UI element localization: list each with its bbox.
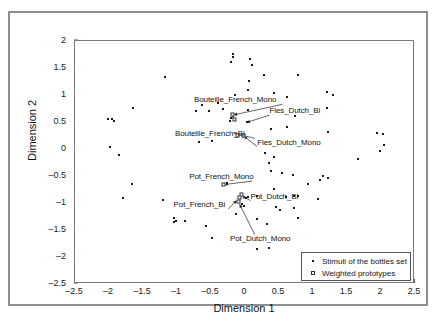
data-point: [205, 225, 207, 227]
annotation-label: Bouteille_French_Mono: [194, 95, 276, 104]
data-point: [132, 107, 134, 109]
figure-frame: Dimension 2 Dimension 1 21.510.50–0.5–1–…: [8, 11, 428, 306]
x-tick-mark: [414, 279, 415, 283]
data-point: [268, 162, 270, 164]
data-point: [281, 172, 283, 174]
data-point: [294, 115, 296, 117]
y-tick-label: 1: [61, 89, 66, 99]
x-tick-label: 1.5: [340, 286, 353, 296]
data-point: [326, 91, 328, 93]
annotation-label: Pot_Dutch_Bi: [250, 192, 298, 201]
data-point: [273, 92, 275, 94]
data-point: [222, 108, 224, 110]
y-tick-label: –1.5: [48, 224, 66, 234]
data-point: [247, 109, 249, 111]
data-point: [264, 152, 266, 154]
data-point: [292, 174, 294, 176]
data-point: [382, 133, 384, 135]
data-point: [230, 61, 232, 63]
x-tick-label: –2.5: [65, 286, 83, 296]
data-point: [162, 199, 164, 201]
data-point: [232, 53, 234, 55]
data-point: [249, 58, 251, 60]
data-point: [357, 158, 359, 160]
data-point: [198, 141, 200, 143]
x-tick-label: –0.5: [201, 286, 219, 296]
prototype-marker: [231, 112, 235, 116]
data-point: [270, 128, 272, 130]
data-point: [208, 110, 210, 112]
x-tick-label: 1: [309, 286, 314, 296]
data-point: [256, 248, 258, 250]
annotation-leader-lines: [75, 41, 415, 284]
x-tick-label: –1: [171, 286, 181, 296]
data-point: [131, 183, 133, 185]
data-point: [173, 221, 175, 223]
chart-legend: Stimuli of the bottles setWeighted proto…: [301, 252, 411, 281]
data-point: [247, 89, 249, 91]
x-tick-label: 0.5: [272, 286, 285, 296]
data-point: [184, 220, 186, 222]
data-point: [173, 217, 175, 219]
data-point: [379, 150, 381, 152]
data-point: [327, 177, 329, 179]
data-point: [293, 207, 295, 209]
data-point: [164, 76, 166, 78]
x-tick-label: 0: [241, 286, 246, 296]
scatter-plot-area[interactable]: Bouteille_French_MonoFles_Dutch_BiBoutei…: [74, 40, 414, 283]
prototype-marker: [236, 199, 240, 203]
y-tick-label: –2: [56, 251, 66, 261]
data-point: [195, 110, 197, 112]
data-point: [122, 197, 124, 199]
prototype-marker: [233, 117, 237, 121]
annotation-label: Fles_Dutch_Bi: [269, 106, 320, 115]
data-point: [263, 74, 265, 76]
data-point: [268, 247, 270, 249]
data-point: [326, 107, 328, 109]
y-tick-label: 0: [61, 143, 66, 153]
data-point: [266, 223, 268, 225]
data-point: [327, 131, 329, 133]
legend-label: Stimuli of the bottles set: [322, 257, 407, 266]
data-point: [246, 121, 248, 123]
data-point: [113, 120, 115, 122]
data-point: [322, 175, 324, 177]
data-point: [211, 140, 213, 142]
data-point: [317, 198, 319, 200]
prototype-marker: [239, 193, 243, 197]
legend-label: Weighted prototypes: [322, 269, 395, 278]
data-point: [229, 120, 231, 122]
data-point: [109, 146, 111, 148]
data-point: [307, 183, 309, 185]
x-tick-label: –2: [103, 286, 113, 296]
legend-dot-icon: [307, 260, 319, 262]
data-point: [297, 217, 299, 219]
legend-square-icon: [307, 271, 319, 275]
annotation-label: Pot_Dutch_Mono: [230, 234, 290, 243]
legend-item[interactable]: Weighted prototypes: [302, 267, 410, 279]
annotation-label: Pot_French_Mono: [189, 172, 253, 181]
data-point: [286, 96, 288, 98]
annotation-label: Fles_Dutch_Mono: [257, 138, 320, 147]
data-point: [248, 80, 250, 82]
data-point: [251, 64, 253, 66]
data-point: [247, 196, 249, 198]
legend-item[interactable]: Stimuli of the bottles set: [302, 255, 410, 267]
x-tick-label: 2.5: [408, 286, 421, 296]
data-point: [256, 218, 258, 220]
x-axis-label: Dimension 1: [74, 302, 414, 314]
data-point: [245, 197, 247, 199]
data-point: [232, 56, 234, 58]
data-point: [226, 182, 228, 184]
data-point: [273, 188, 275, 190]
data-point: [107, 118, 109, 120]
data-point: [118, 154, 120, 156]
data-point: [319, 179, 321, 181]
y-tick-label: –0.5: [48, 170, 66, 180]
data-point: [175, 220, 177, 222]
annotation-label: Pot_French_Bi: [174, 200, 226, 209]
x-tick-label: 2: [377, 286, 382, 296]
data-point: [275, 206, 277, 208]
data-point: [286, 126, 288, 128]
x-tick-label: –1.5: [133, 286, 151, 296]
